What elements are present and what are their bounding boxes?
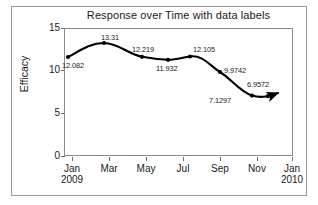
- x-tick-mark-may: [146, 157, 147, 161]
- x-tick-mark-jul: [183, 157, 184, 161]
- y-tick-label-0: 0: [38, 151, 60, 161]
- x-tick-label-jan-2009: Jan 2009: [52, 163, 92, 185]
- data-label-13-31: 13.31: [101, 33, 119, 42]
- x-tick-mark-jan-2009: [72, 157, 73, 161]
- data-label-12-082: 12.082: [62, 61, 84, 70]
- data-label-11-932: 11.932: [156, 64, 177, 73]
- x-tick-year-2009: 2009: [52, 174, 92, 185]
- x-tick-mark-sep: [220, 157, 221, 161]
- plot-area: [64, 28, 293, 156]
- data-label-12-105: 12.105: [193, 45, 215, 54]
- chart-figure: Response over Time with data labels Effi…: [0, 0, 318, 205]
- x-tick-label-mar: Mar: [89, 163, 129, 174]
- x-tick-label-nov: Nov: [237, 163, 277, 174]
- data-label-7-1297: 7.1297: [209, 96, 231, 105]
- data-label-6-9572: 6.9572: [247, 80, 269, 89]
- x-tick-year-2010: 2010: [272, 174, 312, 185]
- x-tick-label-sep: Sep: [200, 163, 240, 174]
- x-tick-mark-nov: [257, 157, 258, 161]
- y-tick-label-10: 10: [38, 65, 60, 75]
- x-tick-mark-mar: [109, 157, 110, 161]
- y-axis-title: Efficacy: [18, 34, 30, 114]
- y-tick-label-15: 15: [38, 23, 60, 33]
- x-tick-label-jul: Jul: [163, 163, 203, 174]
- x-tick-label-may: May: [126, 163, 166, 174]
- y-tick-label-5: 5: [38, 108, 60, 118]
- x-tick-month-jan-2009: Jan: [64, 163, 80, 174]
- x-tick-month-jan-2010: Jan: [284, 163, 300, 174]
- x-tick-mark-jan-2010: [292, 157, 293, 161]
- x-tick-label-jan-2010: Jan 2010: [272, 163, 312, 185]
- data-label-12-219: 12.219: [132, 45, 154, 54]
- y-tick-mark-0: [61, 156, 65, 157]
- chart-title: Response over Time with data labels: [64, 9, 293, 21]
- data-label-9-9742: 9.9742: [224, 66, 246, 75]
